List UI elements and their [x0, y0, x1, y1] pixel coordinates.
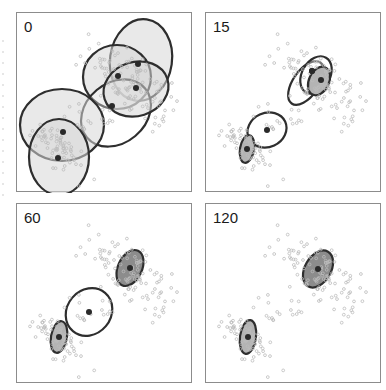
- data-point: [153, 273, 156, 276]
- data-point: [40, 327, 43, 330]
- data-point: [300, 50, 303, 53]
- data-point: [230, 330, 233, 333]
- data-point: [282, 369, 285, 372]
- data-point: [353, 300, 356, 303]
- data-point: [238, 130, 241, 133]
- data-point: [303, 54, 306, 57]
- data-point: [107, 262, 110, 265]
- data-point: [262, 350, 265, 353]
- data-point: [257, 105, 260, 108]
- data-point: [342, 273, 345, 276]
- data-point: [111, 241, 114, 244]
- data-point: [361, 109, 364, 112]
- data-point: [99, 252, 102, 255]
- mean-marker: [315, 266, 321, 272]
- data-point: [147, 298, 150, 301]
- data-point: [41, 330, 44, 333]
- data-point: [126, 237, 129, 240]
- data-point: [79, 246, 82, 249]
- data-point: [99, 285, 102, 288]
- data-point: [97, 233, 100, 236]
- panel-label: 0: [24, 19, 32, 34]
- mean-marker: [86, 309, 92, 315]
- data-point: [349, 83, 352, 86]
- data-point: [79, 55, 82, 58]
- data-point: [343, 288, 346, 291]
- scatter-plot: [17, 13, 193, 193]
- data-point: [269, 355, 272, 358]
- data-point: [342, 122, 345, 125]
- data-point: [330, 296, 333, 299]
- data-point: [360, 273, 363, 276]
- data-point: [114, 245, 117, 248]
- data-point: [240, 134, 243, 137]
- data-point: [330, 81, 333, 84]
- data-point: [123, 293, 126, 296]
- data-point: [153, 122, 156, 125]
- data-point: [235, 147, 238, 150]
- data-point: [153, 313, 156, 316]
- mean-marker: [56, 334, 62, 340]
- data-point: [333, 308, 336, 311]
- data-point: [170, 96, 173, 99]
- data-point: [255, 350, 258, 353]
- data-point: [226, 135, 229, 138]
- data-point: [360, 82, 363, 85]
- data-point: [264, 163, 267, 166]
- data-point: [288, 252, 291, 255]
- data-point: [283, 66, 286, 69]
- data-point: [323, 286, 326, 289]
- data-point: [334, 103, 337, 106]
- data-point: [218, 325, 221, 328]
- mean-marker: [264, 127, 270, 133]
- data-points: [218, 33, 368, 188]
- data-point: [343, 116, 346, 119]
- data-point: [228, 314, 231, 317]
- data-point: [303, 245, 306, 248]
- panel-label: 60: [24, 210, 41, 225]
- data-point: [259, 154, 262, 157]
- data-points: [218, 224, 368, 379]
- data-point: [151, 321, 154, 324]
- data-point: [269, 341, 272, 344]
- data-point: [235, 338, 238, 341]
- data-point: [160, 274, 163, 277]
- data-point: [157, 296, 160, 299]
- mean-marker: [133, 85, 139, 91]
- data-point: [230, 139, 233, 142]
- mean-marker: [318, 77, 324, 83]
- data-point: [340, 321, 343, 324]
- data-point: [353, 109, 356, 112]
- mean-marker: [127, 265, 133, 271]
- data-point: [151, 291, 154, 294]
- data-point: [220, 130, 223, 133]
- data-point: [46, 338, 49, 341]
- data-point: [273, 253, 276, 256]
- data-point: [283, 257, 286, 260]
- data-point: [297, 310, 300, 313]
- data-point: [312, 102, 315, 105]
- data-point: [267, 301, 270, 304]
- data-point: [218, 134, 221, 137]
- data-point: [75, 254, 78, 257]
- scatter-plot: [206, 204, 382, 384]
- data-point: [66, 350, 69, 353]
- data-point: [151, 130, 154, 133]
- data-point: [70, 337, 73, 340]
- data-point: [229, 136, 232, 139]
- data-point: [158, 315, 161, 318]
- data-point: [296, 262, 299, 265]
- data-point: [276, 33, 279, 36]
- data-point: [330, 249, 333, 252]
- data-point: [98, 248, 101, 251]
- data-point: [37, 326, 40, 329]
- data-point: [114, 267, 117, 270]
- data-point: [63, 306, 66, 309]
- data-point: [342, 313, 345, 316]
- data-point: [287, 57, 290, 60]
- data-point: [107, 273, 110, 276]
- data-point: [172, 109, 175, 112]
- data-point: [323, 95, 326, 98]
- data-point: [361, 300, 364, 303]
- data-point: [334, 294, 337, 297]
